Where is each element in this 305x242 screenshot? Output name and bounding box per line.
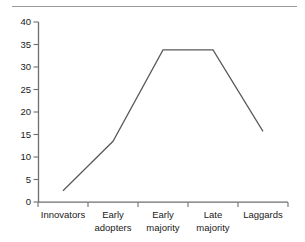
series-line-adopter-distribution — [63, 50, 263, 191]
x-axis-tick-labels: InnovatorsEarlyadoptersEarlymajorityLate… — [41, 209, 283, 233]
x-axis-category-label: Earlyadopters — [95, 209, 132, 233]
y-axis: 0510152025303540 — [20, 16, 38, 207]
x-axis-category-label: Earlymajority — [146, 209, 180, 233]
y-axis-tick-label: 5 — [26, 174, 31, 185]
x-axis-category-label: Laggards — [243, 209, 283, 220]
x-axis-ticks — [38, 202, 288, 207]
y-axis-tick-label: 20 — [20, 106, 31, 117]
y-axis-tick-labels: 0510152025303540 — [20, 16, 31, 207]
y-axis-tick-label: 25 — [20, 84, 31, 95]
chart-figure: 0510152025303540 InnovatorsEarlyadopters… — [0, 0, 305, 242]
y-axis-tick-label: 40 — [20, 16, 31, 27]
y-axis-tick-label: 15 — [20, 129, 31, 140]
data-series-group — [63, 50, 263, 191]
x-axis: InnovatorsEarlyadoptersEarlymajorityLate… — [38, 202, 288, 232]
line-chart: 0510152025303540 InnovatorsEarlyadopters… — [0, 0, 305, 242]
y-axis-tick-label: 30 — [20, 61, 31, 72]
y-axis-ticks — [34, 22, 39, 202]
x-axis-category-label: Latemajority — [196, 209, 230, 233]
y-axis-tick-label: 0 — [26, 196, 31, 207]
x-axis-category-label: Innovators — [41, 209, 86, 220]
y-axis-tick-label: 10 — [20, 151, 31, 162]
y-axis-tick-label: 35 — [20, 39, 31, 50]
